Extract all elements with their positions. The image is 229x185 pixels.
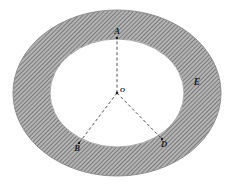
point-marker-a [116, 37, 118, 39]
label-point-d: D [160, 139, 167, 149]
center-point-marker [116, 92, 119, 95]
label-ring-region-e: E [193, 77, 200, 87]
label-point-a: A [113, 26, 120, 36]
annulus-figure: O A B D E [0, 0, 229, 185]
label-center-o: O [120, 86, 125, 94]
label-point-b: B [73, 143, 80, 153]
figure-canvas: O A B D E [0, 0, 229, 185]
